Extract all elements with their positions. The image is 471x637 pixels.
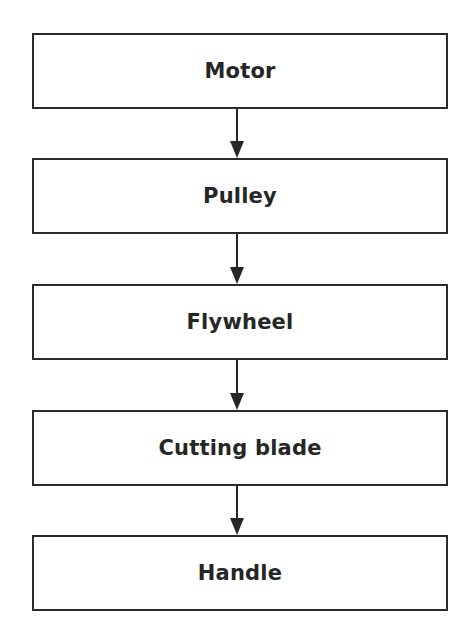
node-pulley: Pulley — [32, 158, 448, 234]
arrow-shaft — [236, 109, 238, 143]
node-label: Cutting blade — [158, 436, 321, 460]
arrow-down-icon — [230, 267, 244, 284]
arrow-pulley-to-flywheel — [230, 234, 244, 284]
node-cutting-blade: Cutting blade — [32, 410, 448, 486]
arrow-motor-to-pulley — [230, 109, 244, 158]
node-handle: Handle — [32, 535, 448, 611]
node-label: Motor — [204, 59, 275, 83]
arrow-down-icon — [230, 393, 244, 410]
node-label: Pulley — [203, 184, 277, 208]
arrow-down-icon — [230, 518, 244, 535]
node-label: Flywheel — [187, 310, 294, 334]
arrow-flywheel-to-cutting-blade — [230, 360, 244, 410]
arrow-cutting-blade-to-handle — [230, 486, 244, 535]
arrow-down-icon — [230, 141, 244, 158]
arrow-shaft — [236, 360, 238, 395]
arrow-shaft — [236, 234, 238, 269]
node-motor: Motor — [32, 33, 448, 109]
node-flywheel: Flywheel — [32, 284, 448, 360]
node-label: Handle — [198, 561, 282, 585]
arrow-shaft — [236, 486, 238, 520]
